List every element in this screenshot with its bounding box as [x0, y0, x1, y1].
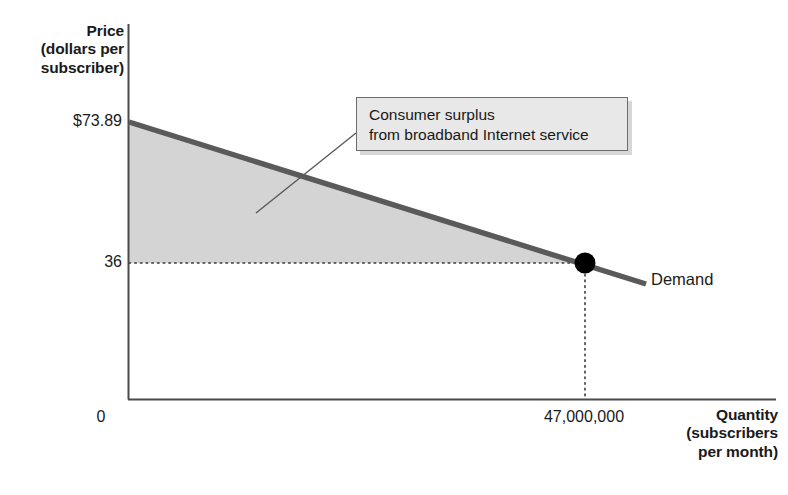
- consumer-surplus-callout-box: Consumer surplus from broadband Internet…: [356, 97, 628, 151]
- demand-curve-label: Demand: [651, 270, 713, 289]
- y-tick-label-price-low: 36: [10, 253, 122, 272]
- y-tick-label-price-high: $73.89: [10, 112, 122, 131]
- equilibrium-point-marker: [575, 253, 596, 274]
- y-axis-title: Price (dollars per subscriber): [0, 22, 124, 77]
- x-tick-label-quantity: 47,000,000: [518, 408, 650, 427]
- consumer-surplus-figure: Price (dollars per subscriber) Quantity …: [0, 0, 788, 495]
- origin-tick-label: 0: [84, 408, 118, 427]
- consumer-surplus-callout-text: Consumer surplus from broadband Internet…: [369, 105, 589, 146]
